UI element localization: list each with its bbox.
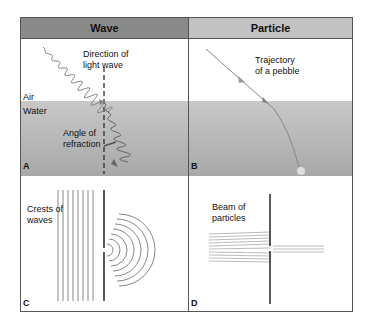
- wave-particle-table: Wave Particle Direction of light wave Ai…: [20, 17, 353, 312]
- particle-beam-diagram: [189, 176, 352, 311]
- panel-letter-d: D: [191, 298, 198, 308]
- header-wave: Wave: [21, 18, 189, 39]
- label-beam-2: particles: [212, 213, 246, 224]
- panel-b: Trajectory of a pebble B: [189, 39, 352, 176]
- label-trajectory-2: of a pebble: [255, 66, 300, 77]
- label-direction-1: Direction of: [83, 49, 129, 60]
- label-air: Air: [23, 92, 34, 103]
- label-angle-2: refraction: [63, 139, 101, 150]
- label-crests-1: Crests of: [27, 204, 63, 215]
- label-trajectory-1: Trajectory: [255, 55, 295, 66]
- label-direction-2: light wave: [83, 60, 123, 71]
- wave-diffraction-diagram: [21, 176, 189, 311]
- panel-c: Crests of waves C: [21, 176, 189, 311]
- label-beam-1: Beam of: [212, 202, 246, 213]
- panel-letter-c: C: [23, 298, 30, 308]
- panel-letter-a: A: [23, 161, 30, 171]
- label-angle-1: Angle of: [63, 128, 96, 139]
- header-particle: Particle: [189, 18, 352, 39]
- label-water: Water: [23, 106, 47, 117]
- panel-a: Direction of light wave Air Water Angle …: [21, 39, 189, 176]
- panel-d: Beam of particles D: [189, 176, 352, 311]
- panel-letter-b: B: [191, 161, 198, 171]
- label-crests-2: waves: [27, 215, 53, 226]
